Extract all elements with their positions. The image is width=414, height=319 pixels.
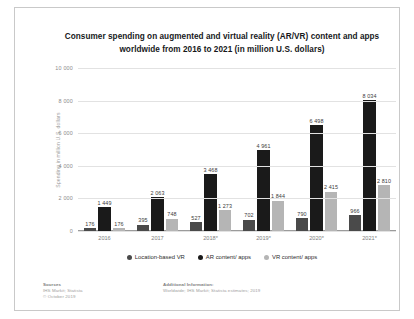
x-axis-tick-label: 2018*	[203, 235, 218, 241]
gridline	[78, 101, 396, 102]
chart-legend: Location-based VRAR content/ appsVR cont…	[43, 254, 401, 260]
bar-value-label: 966	[350, 208, 359, 214]
bar-value-label: 4 961	[257, 143, 271, 149]
chart-page: Consumer spending on augmented and virtu…	[0, 0, 414, 319]
legend-item[interactable]: Location-based VR	[127, 254, 185, 260]
bar[interactable]: 2 810	[378, 185, 391, 231]
bar-value-label: 6 498	[310, 118, 324, 124]
bar-groups: 1761 44917620163952 06374820175273 4681 …	[78, 68, 396, 231]
bar[interactable]: 1 449	[98, 207, 111, 231]
bar-value-label: 3 468	[204, 167, 218, 173]
chart-title: Consumer spending on augmented and virtu…	[43, 30, 401, 56]
y-axis-tick-label: 4 000	[59, 163, 74, 169]
legend-item[interactable]: AR content/ apps	[198, 254, 251, 260]
additional-information-block: Additional Information: Worldwide; IHS M…	[163, 282, 260, 294]
bar-value-label: 1 273	[218, 203, 232, 209]
bar-value-label: 176	[85, 221, 94, 227]
bar-group: 7024 9611 8442019*	[237, 68, 290, 231]
x-axis-tick-label: 2020*	[309, 235, 324, 241]
bar[interactable]: 702	[243, 220, 256, 231]
bar-value-label: 748	[167, 211, 176, 217]
y-axis-tick-label: 2 000	[59, 195, 74, 201]
gridline	[78, 166, 396, 167]
gridline	[78, 133, 396, 134]
y-axis-tick-label: 10 000	[55, 65, 73, 71]
bar[interactable]: 966	[349, 215, 362, 231]
legend-swatch-icon	[127, 255, 132, 260]
additional-information-line-1: Worldwide; IHS Markit; Statista estimate…	[163, 288, 260, 294]
x-axis-tick-label: 2021*	[362, 235, 377, 241]
plot-area: 1761 44917620163952 06374820175273 4681 …	[78, 68, 396, 231]
bar-value-label: 2 810	[377, 178, 391, 184]
bar[interactable]: 1 844	[272, 201, 285, 231]
bar[interactable]: 6 498	[310, 125, 323, 231]
legend-label: VR content/ apps	[272, 254, 317, 260]
bar[interactable]: 2 063	[151, 197, 164, 231]
y-axis-tick-label: 0	[70, 228, 73, 234]
chart-title-line-1: Consumer spending on augmented and virtu…	[43, 30, 401, 43]
bar-value-label: 790	[297, 211, 306, 217]
bar-group: 7906 4982 4152020*	[290, 68, 343, 231]
chart-title-line-2: worldwide from 2016 to 2021 (in million …	[43, 43, 401, 56]
legend-swatch-icon	[264, 255, 269, 260]
bar-value-label: 702	[244, 212, 253, 218]
y-axis-title: Spending in million U.S. dollars	[53, 68, 63, 231]
bar-value-label: 2 063	[151, 190, 165, 196]
bar[interactable]: 748	[166, 219, 179, 231]
chart-footer: Sources IHS Markit; Statista © October 2…	[15, 280, 401, 318]
sources-block: Sources IHS Markit; Statista © October 2…	[43, 282, 83, 301]
chart-frame: Consumer spending on augmented and virtu…	[14, 7, 400, 311]
bar-group: 5273 4681 2732018*	[184, 68, 237, 231]
y-axis-tick-label: 8 000	[59, 98, 74, 104]
bar-group: 1761 4491762016	[78, 68, 131, 231]
gridline	[78, 68, 396, 69]
bar-value-label: 395	[138, 217, 147, 223]
bar-group: 9668 0342 8102021*	[343, 68, 396, 231]
bar-value-label: 1 449	[98, 200, 112, 206]
legend-swatch-icon	[198, 255, 203, 260]
legend-label: AR content/ apps	[206, 254, 251, 260]
x-axis-tick-label: 2016	[98, 235, 110, 241]
legend-item[interactable]: VR content/ apps	[264, 254, 317, 260]
y-axis-tick-label: 6 000	[59, 130, 74, 136]
bar[interactable]: 4 961	[257, 150, 270, 231]
bar-value-label: 176	[114, 221, 123, 227]
bar-value-label: 8 034	[363, 93, 377, 99]
bar-group: 3952 0637482017	[131, 68, 184, 231]
bar-value-label: 2 415	[324, 184, 338, 190]
legend-label: Location-based VR	[135, 254, 185, 260]
sources-line-2: © October 2019	[43, 294, 83, 300]
x-axis-tick-label: 2019*	[256, 235, 271, 241]
gridline	[78, 198, 396, 199]
bar[interactable]: 527	[190, 222, 203, 231]
bar[interactable]: 790	[296, 218, 309, 231]
x-axis-tick-label: 2017	[151, 235, 163, 241]
bar[interactable]: 1 273	[219, 210, 232, 231]
gridline	[78, 231, 396, 232]
bar-value-label: 527	[191, 215, 200, 221]
bar[interactable]: 3 468	[204, 174, 217, 231]
